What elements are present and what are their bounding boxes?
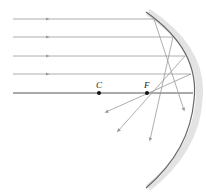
concave-mirror bbox=[146, 12, 195, 188]
focal-point bbox=[145, 91, 149, 95]
label-f: F bbox=[143, 80, 150, 90]
mirror-shadow bbox=[148, 12, 200, 188]
center-of-curvature-point bbox=[97, 91, 101, 95]
label-c: C bbox=[96, 80, 103, 90]
ray-diagram: C F bbox=[0, 0, 206, 192]
